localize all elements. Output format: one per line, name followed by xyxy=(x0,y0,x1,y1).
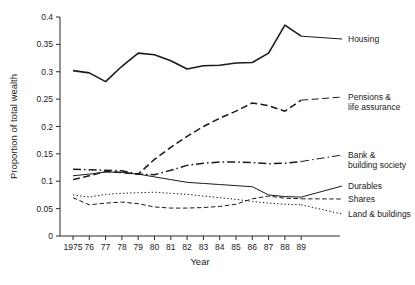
x-axis-tick-label: 1975 xyxy=(64,242,83,252)
x-axis-tick-label: 76 xyxy=(85,242,95,252)
legend-label-text: building society xyxy=(348,160,407,170)
legend-label-text: Bank & xyxy=(348,150,376,160)
y-axis-tick-label: 0.3 xyxy=(41,67,53,77)
legend-leader-line xyxy=(301,205,342,214)
legend-label-housing: Housing xyxy=(301,34,379,44)
legend-label-land-buildings: Land & buildings xyxy=(301,205,411,219)
legend-leader-line xyxy=(301,36,342,39)
legend-label-bank-building-society: Bank &building society xyxy=(301,150,407,170)
series-line-durables xyxy=(73,172,301,197)
y-axis-tick-label: 0.2 xyxy=(41,122,53,132)
y-axis-tick-label: 0.4 xyxy=(41,12,53,22)
series-line-housing xyxy=(73,25,301,81)
x-axis-tick-label: 86 xyxy=(248,242,258,252)
legend-label-text: Housing xyxy=(348,34,379,44)
legend-leader-line xyxy=(301,186,342,197)
chart-canvas: 00.050.10.150.20.250.30.350.419757677787… xyxy=(0,0,415,285)
legend-label-text: Pensions & xyxy=(348,92,391,102)
y-axis-tick-label: 0.25 xyxy=(36,94,53,104)
x-axis-tick-label: 82 xyxy=(182,242,192,252)
x-axis-tick-label: 88 xyxy=(280,242,290,252)
x-axis-tick-label: 85 xyxy=(231,242,241,252)
series-line-pensions-life-assurance xyxy=(73,100,301,179)
wealth-composition-line-chart: 00.050.10.150.20.250.30.350.419757677787… xyxy=(0,0,415,285)
series-line-bank-building-society xyxy=(73,162,301,175)
x-axis-tick-label: 79 xyxy=(133,242,143,252)
legend-leader-line xyxy=(301,155,342,162)
legend-label-shares: Shares xyxy=(301,194,375,204)
x-axis-tick-label: 81 xyxy=(166,242,176,252)
legend-leader-line xyxy=(301,97,342,100)
legend-label-pensions-life-assurance: Pensions &life assurance xyxy=(301,92,401,112)
x-axis-tick-label: 80 xyxy=(150,242,160,252)
x-axis-tick-label: 84 xyxy=(215,242,225,252)
legend-label-text: life assurance xyxy=(348,102,401,112)
x-axis-title: Year xyxy=(190,256,209,267)
legend-label-text: Shares xyxy=(348,194,375,204)
y-axis-tick-label: 0.05 xyxy=(36,204,53,214)
y-axis-tick-label: 0.1 xyxy=(41,176,53,186)
x-axis-tick-label: 83 xyxy=(199,242,209,252)
y-axis-title: Proportion of total wealth xyxy=(8,74,19,179)
y-axis-tick-label: 0 xyxy=(48,231,53,241)
x-axis-tick-label: 77 xyxy=(101,242,111,252)
x-axis-tick-label: 89 xyxy=(296,242,306,252)
y-axis-tick-label: 0.15 xyxy=(36,149,53,159)
y-axis-tick-label: 0.35 xyxy=(36,39,53,49)
series-line-shares xyxy=(73,196,301,208)
legend-label-text: Durables xyxy=(348,181,382,191)
x-axis-tick-label: 87 xyxy=(264,242,274,252)
x-axis-tick-label: 78 xyxy=(117,242,127,252)
legend-label-text: Land & buildings xyxy=(348,209,411,219)
